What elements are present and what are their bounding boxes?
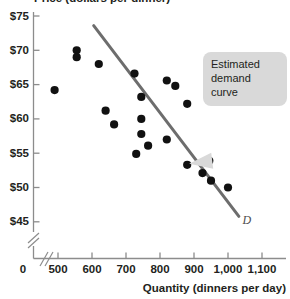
chart-canvas: Price (dollars per dinner) $75$70$65$60$… — [0, 0, 290, 299]
y-axis-break-icon — [28, 233, 39, 248]
data-point — [207, 177, 215, 185]
x-tick-label: 1,000 — [214, 263, 243, 275]
x-tick-label: 500 — [48, 263, 67, 275]
data-point — [183, 161, 191, 169]
demand-curve-label: D — [242, 213, 252, 227]
y-tick-label: $65 — [10, 78, 30, 90]
data-point — [144, 142, 152, 150]
x-tick-label: 900 — [184, 263, 203, 275]
data-point — [51, 86, 59, 94]
data-point — [73, 53, 81, 61]
data-point — [183, 100, 191, 108]
data-point — [163, 135, 171, 143]
y-tick-label: $45 — [10, 215, 30, 227]
demand-curve-chart: Price (dollars per dinner) $75$70$65$60$… — [0, 0, 290, 299]
data-point — [137, 93, 145, 101]
y-axis-title: Price (dollars per dinner) — [34, 0, 170, 4]
callout-line-2: demand — [211, 72, 251, 84]
data-point — [95, 60, 103, 68]
data-point — [137, 115, 145, 123]
x-tick-label: 700 — [116, 263, 135, 275]
y-tick-label: $55 — [10, 147, 30, 159]
y-tick-label: $50 — [10, 181, 29, 193]
data-point — [171, 82, 179, 90]
data-point — [110, 120, 118, 128]
y-tick-label: $70 — [10, 44, 29, 56]
y-tick-label: $75 — [10, 10, 30, 22]
data-point — [163, 76, 171, 84]
x-tick-label: 600 — [82, 263, 101, 275]
x-tick-label: 1,100 — [248, 263, 277, 275]
data-point — [132, 150, 140, 158]
callout-line-1: Estimated — [211, 58, 260, 70]
data-point — [198, 169, 206, 177]
x-axis-title: Quantity (dinners per day) — [143, 282, 286, 294]
x-tick-label: 800 — [150, 263, 169, 275]
data-point — [137, 130, 145, 138]
data-point — [130, 70, 138, 78]
y-tick-label: $60 — [10, 112, 29, 124]
data-point — [102, 107, 110, 115]
data-point — [224, 183, 232, 191]
x-axis-ticks: 5006007008009001,0001,100 — [48, 253, 276, 276]
callout-line-3: curve — [211, 86, 238, 98]
y-axis-ticks: $75$70$65$60$55$50$45 — [10, 10, 40, 228]
origin-label: 0 — [20, 263, 26, 275]
